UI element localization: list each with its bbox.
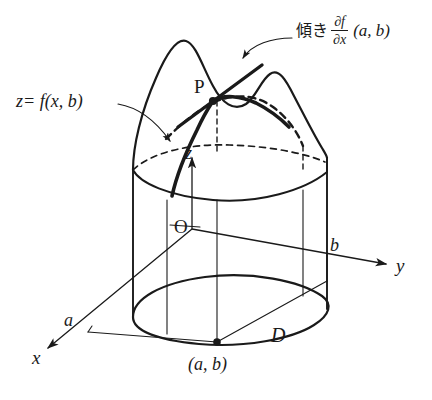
guide-line-from-a [88, 332, 217, 342]
slope-point: (a, b) [353, 22, 390, 39]
axis-label-y: y [396, 256, 404, 275]
domain-label-d: D [271, 325, 285, 345]
tick-a-on-x-axis [88, 326, 92, 332]
surface-curve-label: z= f(x, b) [16, 92, 83, 110]
axis-x [48, 229, 192, 348]
partial-derivative-figure: x y z O P a b D (a, b) z= f(x, b) 傾き ∂f … [0, 0, 432, 400]
axis-label-z: z [185, 144, 192, 162]
axis-label-x: x [32, 348, 40, 367]
slope-annotation: 傾き ∂f ∂x (a, b) [296, 14, 390, 47]
base-point-marker [213, 338, 221, 346]
origin-label: O [174, 217, 188, 236]
surface-silhouette [133, 41, 327, 170]
fraction-denominator: ∂x [331, 30, 348, 47]
leader-line-slope [243, 38, 292, 58]
base-point-label: (a, b) [188, 355, 227, 373]
x-tick-label-a: a [64, 311, 73, 329]
diagram-canvas [0, 0, 432, 400]
partial-derivative-fraction: ∂f ∂x [331, 14, 348, 47]
surface-front-rim [133, 158, 327, 201]
surface-back-rim-dashed [133, 145, 325, 170]
point-p-label: P [194, 77, 205, 96]
axis-y [192, 229, 386, 264]
slope-japanese-word: 傾き [296, 23, 328, 39]
point-p-marker [209, 97, 217, 105]
fraction-numerator: ∂f [332, 14, 347, 30]
y-tick-label-b: b [330, 236, 339, 254]
